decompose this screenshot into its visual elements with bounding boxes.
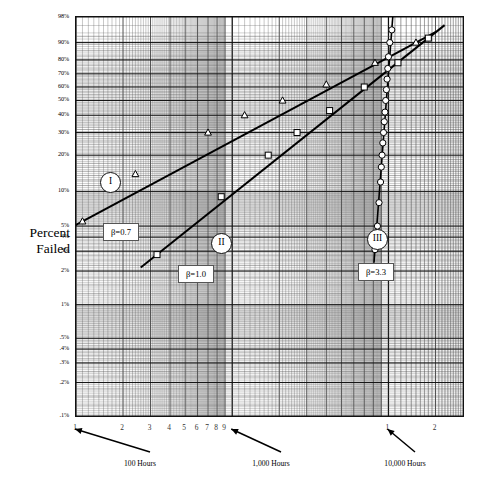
annotation-10000-hours: 10,000 Hours — [384, 460, 425, 468]
arrow-1 — [75, 428, 150, 452]
weibull-probability-chart: Percent Failed 98%90%80%70%60%50%40%30%2… — [0, 0, 483, 491]
arrow-2 — [231, 429, 281, 452]
hour-annotation-arrows — [0, 0, 483, 491]
arrow-3 — [387, 429, 415, 452]
annotation-100-hours: 100 Hours — [124, 460, 156, 468]
annotation-1000-hours: 1,000 Hours — [252, 460, 290, 468]
